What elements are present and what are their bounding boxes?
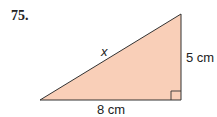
vertical-leg-label: 5 cm	[186, 50, 214, 65]
hypotenuse-label: x	[100, 44, 108, 59]
triangle-shape	[40, 14, 181, 100]
horizontal-leg-label: 8 cm	[97, 102, 125, 117]
right-triangle-diagram: x 5 cm 8 cm	[0, 0, 217, 117]
